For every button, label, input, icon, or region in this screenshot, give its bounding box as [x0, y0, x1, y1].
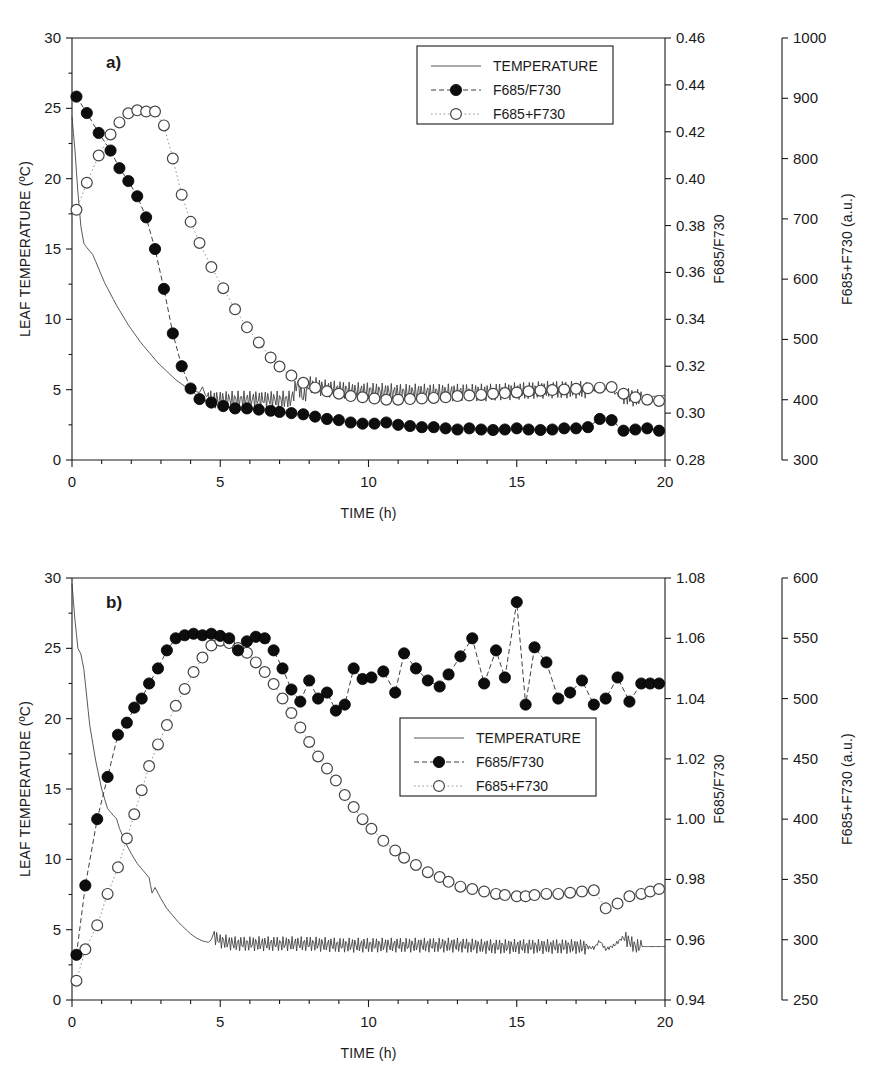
y-right2-tick-label: 300	[793, 451, 818, 468]
sum-data-point	[274, 361, 285, 372]
ratio-data-point	[570, 423, 581, 434]
ratio-data-point	[71, 91, 82, 102]
sum-data-point	[286, 708, 297, 719]
ratio-data-point	[476, 424, 487, 435]
ratio-data-point	[149, 243, 160, 254]
y-right1-tick-label: 0.30	[676, 404, 705, 421]
axes-group-b: 051015202530051015200.940.960.981.001.02…	[44, 569, 818, 1030]
x-tick-label: 20	[657, 473, 674, 490]
y-left-tick-label: 25	[44, 99, 61, 116]
ratio-data-point	[310, 411, 321, 422]
ratio-data-point	[393, 419, 404, 430]
sum-data-point	[422, 867, 433, 878]
sum-data-point	[642, 394, 653, 405]
ratio-data-point	[576, 675, 587, 686]
sum-data-point	[630, 392, 641, 403]
y-right1-tick-label: 0.34	[676, 310, 705, 327]
ratio-data-point	[345, 417, 356, 428]
sum-data-point	[594, 382, 605, 393]
y-left-tick-label: 0	[53, 991, 61, 1008]
sum-data-point	[428, 393, 439, 404]
ratio-data-point	[218, 400, 229, 411]
ratio-data-point	[594, 413, 605, 424]
sum-data-point	[577, 886, 588, 897]
sum-data-point	[366, 823, 377, 834]
ratio-data-point	[298, 409, 309, 420]
ratio-data-point	[369, 418, 380, 429]
sum-data-point	[93, 150, 104, 161]
sum-data-point	[105, 129, 116, 140]
ratio-data-point	[499, 672, 510, 683]
sum-data-point	[102, 889, 113, 900]
ratio-data-point	[410, 663, 421, 674]
sum-data-point	[381, 394, 392, 405]
legend-open-circle-icon	[434, 781, 445, 792]
x-tick-label: 15	[508, 473, 525, 490]
ratio-data-point	[357, 418, 368, 429]
legend-item-label: TEMPERATURE	[476, 730, 581, 746]
ratio-data-point	[618, 425, 629, 436]
ratio-data-point	[653, 425, 664, 436]
sum-data-point	[81, 177, 92, 188]
ratio-data-point	[464, 423, 475, 434]
sum-data-point	[541, 889, 552, 900]
y-right2-tick-label: 350	[793, 870, 818, 887]
sum-data-point	[654, 396, 665, 407]
y-right1-tick-label: 1.00	[676, 810, 705, 827]
legend-item-label: F685/F730	[476, 754, 544, 770]
y-right1-tick-label: 1.02	[676, 750, 705, 767]
sum-data-point	[322, 386, 333, 397]
sum-data-point	[511, 387, 522, 398]
y-left-tick-label: 15	[44, 780, 61, 797]
ratio-data-point	[624, 696, 635, 707]
legend-item-label: F685/F730	[493, 82, 561, 98]
sum-data-point	[218, 283, 229, 294]
y-right2-tick-label: 1000	[793, 29, 826, 46]
labels-group-b: LEAF TEMPERATURE (ºC)F685/F730F685+F730 …	[17, 593, 855, 1061]
sum-data-point	[529, 890, 540, 901]
sum-data-point	[150, 106, 161, 117]
ratio-data-point	[582, 422, 593, 433]
sum-data-point	[348, 802, 359, 813]
sum-data-point	[310, 382, 321, 393]
ratio-data-point	[167, 328, 178, 339]
ratio-data-point	[121, 717, 132, 728]
sum-data-point	[259, 667, 270, 678]
ratio-data-point	[600, 693, 611, 704]
y-axis-right1-title: F685/F730	[711, 214, 727, 284]
y-right1-tick-label: 0.32	[676, 357, 705, 374]
chart-svg-a: 051015202530051015200.280.300.320.340.36…	[0, 20, 878, 530]
ratio-data-point	[71, 949, 82, 960]
ratio-data-point	[81, 107, 92, 118]
ratio-data-point	[440, 423, 451, 434]
sum-data-point	[298, 377, 309, 388]
sum-data-point	[606, 382, 617, 393]
legend-item-label: TEMPERATURE	[493, 58, 598, 74]
ratio-data-point	[612, 672, 623, 683]
ratio-data-point	[511, 597, 522, 608]
y-left-tick-label: 20	[44, 170, 61, 187]
sum-data-point	[345, 391, 356, 402]
sum-data-point	[464, 390, 475, 401]
sum-data-point	[583, 383, 594, 394]
sum-data-point	[304, 737, 315, 748]
ratio-data-point	[274, 406, 285, 417]
y-right2-tick-label: 500	[793, 330, 818, 347]
sum-data-point	[440, 392, 451, 403]
panel-label: b)	[106, 593, 122, 612]
sum-data-point	[129, 809, 140, 820]
ratio-data-point	[105, 145, 116, 156]
sum-data-point	[197, 652, 208, 663]
ratio-data-point	[80, 880, 91, 891]
ratio-data-point	[588, 699, 599, 710]
y-left-tick-label: 10	[44, 850, 61, 867]
y-right1-tick-label: 0.96	[676, 931, 705, 948]
sum-data-point	[113, 862, 124, 873]
y-right1-tick-label: 1.08	[676, 569, 705, 586]
sum-data-point	[455, 881, 466, 892]
y-right2-tick-label: 700	[793, 210, 818, 227]
y-right2-tick-label: 550	[793, 629, 818, 646]
ratio-data-point	[547, 424, 558, 435]
ratio-data-point	[452, 424, 463, 435]
sum-data-point	[71, 975, 82, 986]
